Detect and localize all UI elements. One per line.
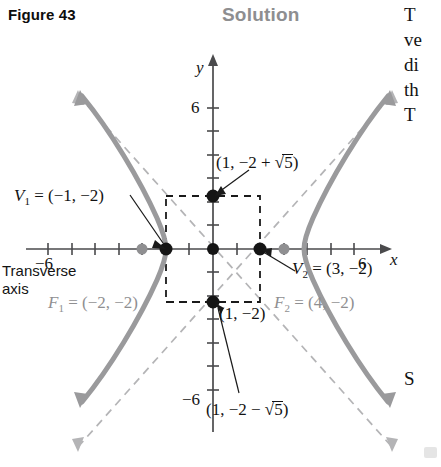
y-axis-arrowhead [208, 54, 218, 66]
vertex-1-symbol: V [14, 186, 24, 205]
upper-covertex-point [207, 190, 220, 203]
upper-covertex-label: (1, −2 + √5) [216, 153, 298, 173]
transverse-axis-label-line2: axis [2, 280, 29, 297]
lower-covertex-suffix: ) [283, 400, 289, 419]
leader-upper-point [219, 170, 249, 192]
vertex-2-point [254, 243, 267, 256]
upper-covertex-radicand: 5 [284, 153, 293, 172]
y-tick-label-pos6: 6 [191, 98, 200, 118]
focus-1-point [137, 244, 148, 255]
focus-2-label: F2 = (4, −2) [274, 293, 354, 314]
focus-1-value: = (−2, −2) [64, 293, 138, 312]
hyperbola-plot [0, 0, 441, 467]
sqrt-symbol-lower-icon: √5 [265, 400, 283, 420]
upper-covertex-prefix: (1, −2 + [216, 153, 275, 172]
sqrt-symbol-upper-icon: √5 [275, 153, 293, 173]
center-point [207, 243, 219, 255]
y-axis-label: y [196, 58, 204, 78]
focus-2-point [279, 244, 290, 255]
axes [26, 60, 386, 432]
vertex-1-label: V1 = (−1, −2) [14, 186, 104, 207]
transverse-axis-label-line1: Transverse [2, 262, 76, 279]
figure-page: Figure 43 Solution T ve di th T S [0, 0, 441, 467]
focus-1-label: F1 = (−2, −2) [48, 293, 138, 314]
x-axis-label: x [390, 250, 398, 270]
y-tick-label-neg6: −6 [182, 390, 200, 410]
vertex-1-value: = (−1, −2) [30, 186, 104, 205]
lower-covertex-radicand: 5 [274, 400, 283, 419]
center-point-label: (1, −2) [219, 304, 265, 324]
upper-covertex-suffix: ) [293, 153, 299, 172]
lower-covertex-prefix: (1, −2 − [206, 400, 265, 419]
lower-covertex-label: (1, −2 − √5) [206, 400, 288, 420]
focus-2-symbol: F [274, 293, 284, 312]
vertex-2-symbol: V [292, 259, 302, 278]
focus-1-symbol: F [48, 293, 58, 312]
focus-2-value: = (4, −2) [290, 293, 355, 312]
vertex-2-label: V2 = (3, −2) [292, 259, 372, 280]
vertex-2-value: = (3, −2) [308, 259, 373, 278]
